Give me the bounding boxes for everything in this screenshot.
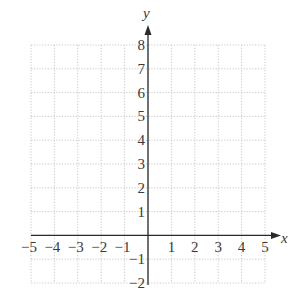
y-tick-label: 5: [138, 108, 146, 124]
y-axis-arrow-icon: [145, 25, 152, 35]
x-tick-label: −2: [91, 239, 107, 255]
y-tick-label: 7: [138, 61, 146, 77]
y-axis-label: y: [141, 5, 150, 21]
x-tick-label: 3: [214, 239, 222, 255]
y-tick-label: 2: [138, 180, 146, 196]
x-tick-label: 5: [261, 239, 269, 255]
x-axis-arrow-icon: [271, 232, 281, 239]
x-tick-label: 2: [191, 239, 199, 255]
y-tick-label: 3: [138, 156, 146, 172]
y-tick-label: 4: [138, 132, 146, 148]
x-axis-label: x: [280, 230, 288, 246]
y-tick-label: −2: [129, 275, 145, 291]
y-tick-labels: −2−112345678: [129, 37, 145, 291]
x-tick-label: 4: [238, 239, 246, 255]
y-tick-label: −1: [129, 251, 145, 267]
x-tick-label: −5: [21, 239, 37, 255]
x-tick-label: 1: [168, 239, 176, 255]
x-tick-label: −3: [68, 239, 84, 255]
coordinate-plane: −5−4−3−2−112345 −2−112345678 x y: [0, 0, 305, 298]
y-tick-label: 8: [138, 37, 146, 53]
x-tick-label: −4: [44, 239, 60, 255]
y-tick-label: 1: [138, 204, 146, 220]
y-tick-label: 6: [138, 85, 146, 101]
